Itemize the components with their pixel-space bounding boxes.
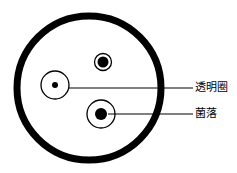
colony-dot [95,108,107,120]
colony-label: 菌落 [195,108,217,120]
colony-dot [98,57,109,68]
colony-dot [52,82,58,88]
halo-label: 透明圈 [195,82,228,94]
